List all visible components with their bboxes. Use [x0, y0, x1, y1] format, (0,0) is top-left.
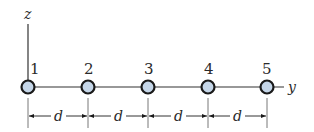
node-5 [261, 81, 274, 94]
node-1 [22, 81, 35, 94]
spacing-label-1: d [54, 108, 63, 124]
node-2 [82, 81, 95, 94]
node-label-3: 3 [144, 60, 154, 78]
node-label-2: 2 [84, 60, 94, 78]
spacing-label-4: d [233, 108, 242, 124]
node-label-4: 4 [204, 60, 214, 78]
diagram-svg: z y 1 2 3 4 5 d d d [0, 0, 314, 132]
node-4 [202, 81, 215, 94]
node-3 [142, 81, 155, 94]
y-axis-label: y [287, 79, 297, 95]
diagram-canvas: z y 1 2 3 4 5 d d d [0, 0, 314, 132]
node-label-1: 1 [30, 60, 40, 78]
z-axis-label: z [23, 6, 32, 22]
spacing-label-2: d [114, 108, 123, 124]
spacing-label-3: d [174, 108, 183, 124]
node-label-5: 5 [262, 60, 272, 78]
